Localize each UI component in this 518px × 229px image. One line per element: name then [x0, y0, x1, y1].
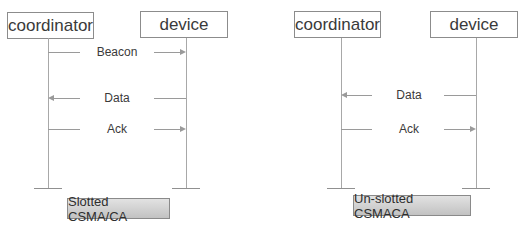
- device-label: device: [449, 15, 498, 35]
- message-label: Beacon: [82, 45, 152, 59]
- message-label: Ack: [82, 122, 152, 136]
- coordinator-label: coordinator: [295, 15, 380, 35]
- unslotted-caption: Un-slotted CSMACA: [353, 195, 471, 216]
- device-lifeline: [476, 38, 477, 188]
- device-actor-box: device: [140, 11, 228, 38]
- coordinator-actor-box: coordinator: [294, 11, 381, 38]
- coordinator-label: coordinator: [8, 16, 93, 36]
- coordinator-lifeline: [341, 38, 342, 188]
- coordinator-lifeline-end: [327, 188, 355, 189]
- message-label: Data: [82, 91, 152, 105]
- coordinator-actor-box: coordinator: [7, 12, 94, 39]
- device-lifeline-end: [462, 188, 490, 189]
- caption-text: Un-slotted CSMACA: [354, 191, 470, 221]
- device-lifeline-end: [172, 188, 200, 189]
- message-label: Ack: [374, 122, 444, 136]
- arrow-right-icon: [470, 126, 476, 132]
- device-lifeline: [186, 38, 187, 188]
- arrow-right-icon: [180, 126, 186, 132]
- coordinator-lifeline-end: [34, 188, 62, 189]
- slotted-caption: Slotted CSMA/CA: [67, 198, 170, 219]
- device-label: device: [159, 15, 208, 35]
- caption-text: Slotted CSMA/CA: [68, 194, 169, 224]
- device-actor-box: device: [430, 11, 518, 38]
- arrow-right-icon: [180, 49, 186, 55]
- message-label: Data: [374, 88, 444, 102]
- coordinator-lifeline: [48, 38, 49, 188]
